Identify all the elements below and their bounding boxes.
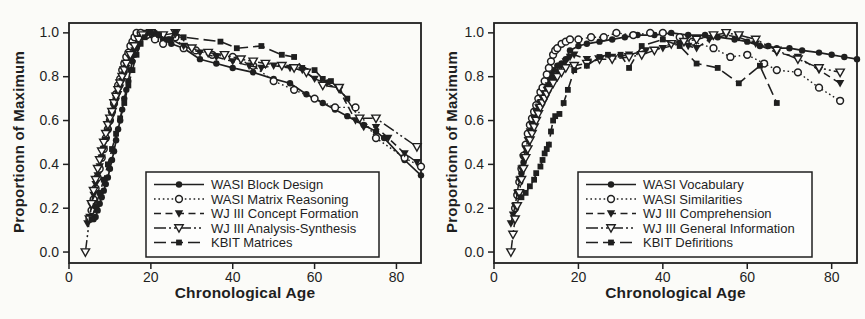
- marker-filled-square: [736, 80, 742, 86]
- marker-filled-square: [540, 157, 546, 163]
- marker-filled-square: [156, 32, 162, 38]
- marker-filled-square: [533, 170, 539, 176]
- y-tick-label: 0.2: [40, 200, 60, 216]
- marker-filled-square: [571, 67, 577, 73]
- marker-open-circle: [647, 29, 654, 36]
- marker-filled-square: [148, 30, 154, 36]
- marker-filled-circle: [622, 34, 628, 40]
- marker-filled-square: [328, 78, 334, 84]
- marker-open-triangle-down: [100, 139, 108, 146]
- marker-open-circle: [588, 34, 595, 41]
- y-tick-label: 0.2: [465, 200, 485, 216]
- marker-filled-square: [113, 131, 119, 137]
- legend-label: WJ III Comprehension: [643, 206, 772, 221]
- marker-filled-square: [105, 161, 111, 167]
- marker-filled-square: [626, 65, 632, 71]
- x-axis: 020406080: [65, 263, 404, 285]
- x-axis-label-left: Chronological Age: [69, 284, 421, 302]
- marker-filled-square: [218, 39, 224, 45]
- marker-filled-square: [774, 100, 780, 106]
- y-axis: 1.00.80.60.40.20.0: [465, 24, 494, 259]
- marker-open-triangle-down: [509, 231, 517, 238]
- marker-filled-square: [299, 65, 305, 71]
- marker-filled-square: [291, 54, 297, 60]
- marker-filled-circle: [230, 65, 236, 71]
- marker-filled-circle: [816, 49, 822, 55]
- marker-filled-circle: [418, 172, 424, 178]
- marker-filled-circle: [608, 181, 614, 187]
- marker-open-circle: [608, 196, 615, 203]
- x-axis-label-right: Chronological Age: [494, 284, 857, 302]
- marker-open-circle: [773, 67, 780, 74]
- marker-filled-square: [618, 52, 624, 58]
- marker-filled-circle: [786, 45, 792, 51]
- marker-filled-square: [181, 34, 187, 40]
- marker-filled-square: [694, 61, 700, 67]
- panel-nonverbal-tests: 0204060801.00.80.60.40.20.0WASI Block De…: [0, 0, 433, 319]
- marker-open-circle: [816, 84, 823, 91]
- marker-filled-square: [164, 37, 170, 43]
- marker-filled-square: [138, 41, 144, 47]
- x-tick-label: 80: [389, 269, 405, 285]
- marker-filled-circle: [799, 47, 805, 53]
- y-tick-label: 0.8: [465, 68, 485, 84]
- marker-open-triangle-down: [638, 52, 646, 59]
- y-axis-label-right: Proportionn of Maximum: [443, 51, 460, 233]
- marker-filled-square: [344, 96, 350, 102]
- marker-filled-square: [639, 43, 645, 49]
- marker-open-triangle-down: [507, 249, 515, 256]
- marker-filled-triangle-down: [692, 45, 700, 52]
- marker-filled-square: [677, 43, 683, 49]
- marker-open-circle: [270, 78, 277, 85]
- marker-filled-square: [565, 87, 571, 93]
- marker-filled-square: [176, 240, 182, 246]
- marker-filled-square: [608, 240, 614, 246]
- x-tick-label: 20: [143, 269, 159, 285]
- marker-open-circle: [727, 54, 734, 61]
- x-tick-label: 40: [225, 269, 241, 285]
- marker-open-triangle-down: [319, 82, 327, 89]
- y-tick-label: 1.0: [40, 24, 60, 40]
- marker-open-triangle-down: [836, 69, 844, 76]
- plot-nonverbal: 0204060801.00.80.60.40.20.0WASI Block De…: [0, 0, 433, 319]
- plot-verbal: 0204060801.00.80.60.40.20.0WASI Vocabula…: [433, 0, 865, 319]
- y-tick-label: 0.6: [465, 112, 485, 128]
- marker-filled-triangle-down: [229, 58, 237, 65]
- marker-filled-circle: [303, 91, 309, 97]
- y-tick-label: 0.4: [40, 156, 60, 172]
- marker-open-circle: [630, 32, 637, 39]
- panel-verbal-tests: 0204060801.00.80.60.40.20.0WASI Vocabula…: [433, 0, 865, 319]
- x-tick-label: 40: [655, 269, 671, 285]
- legend-label: KBIT Defiritions: [643, 235, 734, 250]
- marker-open-circle: [291, 86, 298, 93]
- marker-filled-square: [546, 142, 552, 148]
- marker-filled-circle: [344, 113, 350, 119]
- marker-filled-circle: [176, 181, 182, 187]
- marker-open-circle: [744, 51, 751, 58]
- legend-label: WASI Matrix Reasoning: [211, 192, 349, 207]
- figure: 0204060801.00.80.60.40.20.0WASI Block De…: [0, 0, 865, 319]
- y-tick-label: 0.8: [40, 68, 60, 84]
- marker-open-circle: [659, 29, 666, 36]
- marker-open-circle: [567, 36, 574, 43]
- marker-open-circle: [543, 71, 550, 78]
- legend-label: WJ III General Information: [643, 221, 795, 236]
- y-tick-label: 0.4: [465, 156, 485, 172]
- marker-open-circle: [575, 36, 582, 43]
- marker-filled-circle: [854, 56, 860, 62]
- marker-open-circle: [176, 196, 183, 203]
- marker-filled-square: [279, 52, 285, 58]
- y-tick-label: 1.0: [465, 24, 485, 40]
- marker-open-circle: [332, 104, 339, 111]
- marker-filled-square: [134, 52, 140, 58]
- marker-filled-square: [117, 115, 123, 121]
- x-tick-label: 0: [65, 269, 73, 285]
- legend-label: WJ III Analysis-Synthesis: [211, 221, 357, 236]
- marker-open-circle: [311, 95, 318, 102]
- marker-filled-circle: [609, 36, 615, 42]
- marker-filled-square: [101, 177, 107, 183]
- marker-filled-circle: [320, 100, 326, 106]
- legend: WASI VocabularyWASI SimilaritiesWJ III C…: [578, 172, 812, 257]
- marker-filled-square: [523, 190, 529, 196]
- y-tick-label: 0.6: [40, 112, 60, 128]
